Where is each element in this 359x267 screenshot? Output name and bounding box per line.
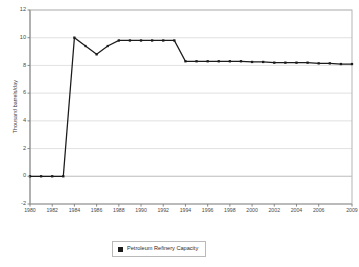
series-group xyxy=(29,37,353,178)
data-point-marker xyxy=(306,62,308,64)
data-point-marker xyxy=(140,39,142,41)
data-point-marker xyxy=(284,62,286,64)
data-point-marker xyxy=(329,62,331,64)
data-point-marker xyxy=(218,60,220,62)
x-tick-label: 2002 xyxy=(264,208,284,213)
data-point-marker xyxy=(162,39,164,41)
y-tick-label: -2 xyxy=(6,201,26,207)
data-point-marker xyxy=(173,39,175,41)
x-tick-label: 2006 xyxy=(309,208,329,213)
data-point-marker xyxy=(129,39,131,41)
x-tick-label: 2009 xyxy=(342,208,359,213)
y-tick-label: 0 xyxy=(6,173,26,179)
x-tick-label: 1988 xyxy=(109,208,129,213)
y-tick-label: 4 xyxy=(6,118,26,124)
series-line xyxy=(30,38,352,177)
data-point-marker xyxy=(295,62,297,64)
data-point-marker xyxy=(151,39,153,41)
data-point-marker xyxy=(62,175,64,177)
data-point-marker xyxy=(107,45,109,47)
chart-legend: Petroleum Refinery Capacity xyxy=(112,241,206,257)
x-tick-label: 2004 xyxy=(286,208,306,213)
data-point-marker xyxy=(262,61,264,63)
y-tick-label: 2 xyxy=(6,146,26,152)
x-tick-label: 1980 xyxy=(20,208,40,213)
chart-figure: Thousand barrels/day 121086420-2 1980198… xyxy=(0,0,359,267)
x-tick-label: 1990 xyxy=(131,208,151,213)
x-tick-label: 1996 xyxy=(198,208,218,213)
legend-entry-label: Petroleum Refinery Capacity xyxy=(127,246,198,252)
data-point-marker xyxy=(318,62,320,64)
data-point-marker xyxy=(195,60,197,62)
data-point-marker xyxy=(184,60,186,62)
data-point-marker xyxy=(351,63,353,65)
data-point-marker xyxy=(118,39,120,41)
data-point-marker xyxy=(51,175,53,177)
plot-border xyxy=(30,10,352,204)
axes-group xyxy=(30,10,352,204)
data-point-marker xyxy=(340,63,342,65)
x-tick-label: 1986 xyxy=(87,208,107,213)
x-tick-label: 1984 xyxy=(64,208,84,213)
y-tick-label: 6 xyxy=(6,90,26,96)
x-tick-label: 2000 xyxy=(242,208,262,213)
data-point-marker xyxy=(95,53,97,55)
plot-area-wrapper: Thousand barrels/day 121086420-2 1980198… xyxy=(0,0,359,230)
data-point-marker xyxy=(240,60,242,62)
y-tick-label: 10 xyxy=(6,35,26,41)
data-point-marker xyxy=(207,60,209,62)
data-point-marker xyxy=(251,61,253,63)
data-point-marker xyxy=(229,60,231,62)
x-tick-label: 1998 xyxy=(220,208,240,213)
x-tick-label: 1992 xyxy=(153,208,173,213)
line-chart-canvas xyxy=(0,0,359,230)
square-marker-icon xyxy=(118,247,123,252)
data-point-marker xyxy=(84,45,86,47)
data-point-marker xyxy=(40,175,42,177)
x-tick-label: 1994 xyxy=(175,208,195,213)
data-point-marker xyxy=(73,37,75,39)
y-tick-label: 12 xyxy=(6,7,26,13)
y-tick-label: 8 xyxy=(6,63,26,69)
data-point-marker xyxy=(273,62,275,64)
x-tick-label: 1982 xyxy=(42,208,62,213)
gridlines-group xyxy=(30,10,352,176)
